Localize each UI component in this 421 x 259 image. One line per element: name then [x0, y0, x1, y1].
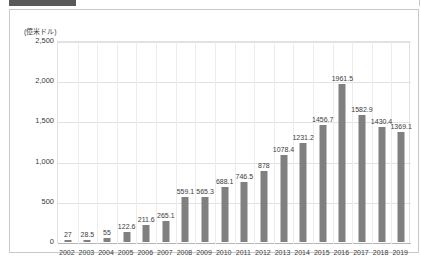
bar-slot: 565.3 — [195, 41, 215, 242]
bar-value-label: 122.6 — [118, 223, 136, 231]
bar-slot: 559.1 — [176, 41, 196, 242]
bar-slot: 746.5 — [235, 41, 255, 242]
bar[interactable] — [64, 240, 71, 242]
bar-slot: 688.1 — [215, 41, 235, 242]
bar-value-label: 559.1 — [177, 188, 195, 196]
bar-slot: 1078.4 — [274, 41, 294, 242]
bar-slot: 1961.5 — [333, 41, 353, 242]
bar-value-label: 1961.5 — [332, 75, 353, 83]
bar-value-label: 1231.2 — [292, 134, 313, 142]
y-axis-tick-label: 500 — [12, 198, 54, 206]
bar-value-label: 746.5 — [236, 173, 254, 181]
bar[interactable] — [104, 238, 111, 242]
bar-slot: 878 — [254, 41, 274, 242]
bar-slot: 1430.4 — [372, 41, 392, 242]
y-axis-tick-label: 1,000 — [12, 158, 54, 166]
bar-slot: 28.5 — [78, 41, 98, 242]
cutoff-header-dark-cell — [9, 0, 76, 6]
bar-value-label: 55 — [103, 229, 111, 237]
bar-value-label: 1430.4 — [371, 118, 392, 126]
bar-slot: 1369.1 — [391, 41, 411, 242]
y-axis-unit-label: (億米ドル) — [24, 27, 57, 36]
plot-area: 2728.555122.6211.6265.1559.1565.3688.174… — [57, 41, 410, 243]
bar-value-label: 1078.4 — [273, 146, 294, 154]
y-axis-tick-labels: 2,5002,0001,5001,0005000 — [10, 41, 54, 243]
chart-figure-frame: (億米ドル) 2,5002,0001,5001,0005000 2728.555… — [9, 9, 419, 253]
bar-value-label: 27 — [64, 231, 72, 239]
y-axis-tick-label: 2,500 — [12, 37, 54, 45]
bar-value-label: 265.1 — [157, 212, 175, 220]
bar-slot: 55 — [97, 41, 117, 242]
x-axis-tick-labels: 2002200320042005200620072008200920102011… — [57, 248, 410, 259]
y-axis-tick-label: 1,500 — [12, 117, 54, 125]
bar-value-label: 1582.9 — [351, 106, 372, 114]
bar-slot: 265.1 — [156, 41, 176, 242]
bar-value-label: 878 — [258, 162, 270, 170]
y-axis-tick-label: 2,000 — [12, 77, 54, 85]
bar-slot: 27 — [58, 41, 78, 242]
bar[interactable] — [319, 125, 326, 242]
bar[interactable] — [221, 187, 228, 242]
bar[interactable] — [358, 115, 365, 242]
y-axis-tick-label: 0 — [12, 238, 54, 246]
bar-slot: 1456.7 — [313, 41, 333, 242]
bar-value-label: 211.6 — [138, 216, 155, 224]
bar[interactable] — [339, 84, 346, 242]
bar[interactable] — [84, 240, 91, 242]
bar-value-label: 1369.1 — [390, 123, 411, 131]
bar[interactable] — [182, 197, 189, 242]
bar[interactable] — [241, 182, 248, 242]
bar-value-label: 1456.7 — [312, 116, 333, 124]
bar-slot: 122.6 — [117, 41, 137, 242]
bar[interactable] — [143, 225, 150, 242]
cutoff-table-header-strip — [0, 0, 421, 7]
bar-slot: 1231.2 — [293, 41, 313, 242]
bar[interactable] — [202, 197, 209, 242]
bar[interactable] — [162, 221, 169, 242]
bar-slot: 211.6 — [136, 41, 156, 242]
bar[interactable] — [378, 127, 385, 242]
bar[interactable] — [280, 155, 287, 242]
bar[interactable] — [398, 132, 405, 242]
bar-slot: 1582.9 — [352, 41, 372, 242]
bar-value-label: 28.5 — [81, 231, 95, 239]
bar[interactable] — [123, 232, 130, 242]
x-axis-tick-label: 2019 — [387, 248, 413, 257]
bar[interactable] — [260, 171, 267, 242]
bar-value-label: 688.1 — [216, 178, 234, 186]
bar[interactable] — [300, 143, 307, 242]
bar-value-label: 565.3 — [196, 188, 214, 196]
